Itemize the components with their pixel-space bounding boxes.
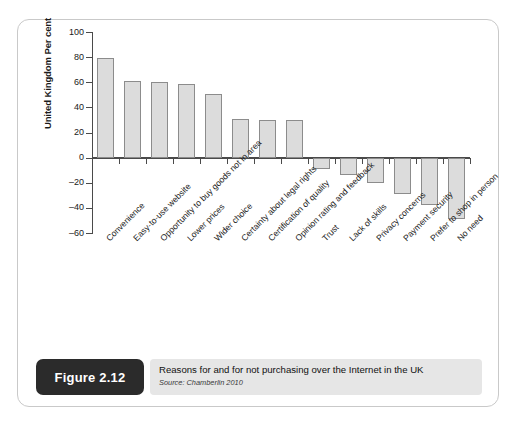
bar bbox=[259, 120, 276, 158]
x-axis-tick bbox=[254, 158, 255, 164]
x-axis-tick bbox=[227, 158, 228, 164]
y-axis-tick-label: 40 bbox=[44, 103, 84, 112]
bar bbox=[178, 84, 195, 158]
y-axis-tick bbox=[86, 233, 93, 234]
x-axis-tick bbox=[119, 158, 120, 164]
figure-caption-text: Reasons for and for not purchasing over … bbox=[159, 364, 473, 376]
x-axis-tick bbox=[416, 158, 417, 164]
y-axis-tick-label: –40 bbox=[44, 203, 84, 212]
bar bbox=[124, 81, 141, 158]
figure-card: United Kingdom Per cent 100806040200–20–… bbox=[17, 19, 499, 407]
figure-caption-panel: Reasons for and for not purchasing over … bbox=[150, 359, 482, 395]
y-axis-tick-label: 100 bbox=[44, 28, 84, 37]
y-axis-tick bbox=[86, 208, 93, 209]
y-axis-tick bbox=[86, 82, 93, 83]
bar bbox=[286, 120, 303, 158]
bar bbox=[394, 158, 411, 194]
bar bbox=[340, 158, 357, 176]
chart-plot-area: United Kingdom Per cent 100806040200–20–… bbox=[18, 20, 500, 350]
x-axis-tick bbox=[281, 158, 282, 164]
y-axis-tick bbox=[86, 133, 93, 134]
x-axis-tick bbox=[92, 158, 93, 164]
x-axis-label: Privacy concerns bbox=[374, 189, 427, 242]
y-axis-tick-label: 60 bbox=[44, 78, 84, 87]
x-axis-tick bbox=[470, 158, 471, 164]
figure-source-text: Source: Chamberlin 2010 bbox=[159, 378, 473, 387]
x-axis-tick bbox=[308, 158, 309, 164]
x-axis-label: Trust bbox=[320, 222, 341, 243]
bar bbox=[151, 82, 168, 157]
y-axis-tick bbox=[86, 183, 93, 184]
y-axis-tick bbox=[86, 57, 93, 58]
x-axis-tick bbox=[200, 158, 201, 164]
y-axis-tick-label: –20 bbox=[44, 178, 84, 187]
x-axis-tick bbox=[335, 158, 336, 164]
figure-caption-row: Figure 2.12 Reasons for and for not purc… bbox=[36, 359, 482, 395]
y-axis-tick-label: –60 bbox=[44, 229, 84, 238]
y-axis-tick bbox=[86, 32, 93, 33]
y-axis-tick-label: 80 bbox=[44, 53, 84, 62]
x-axis-tick bbox=[389, 158, 390, 164]
y-axis-tick bbox=[86, 107, 93, 108]
x-axis-tick bbox=[173, 158, 174, 164]
bar bbox=[205, 94, 222, 158]
x-axis-tick bbox=[146, 158, 147, 164]
x-axis-tick bbox=[443, 158, 444, 164]
y-axis-tick-label: 20 bbox=[44, 128, 84, 137]
figure-number-badge: Figure 2.12 bbox=[36, 359, 144, 395]
bar bbox=[97, 58, 114, 157]
y-axis-tick-label: 0 bbox=[44, 153, 84, 162]
x-axis-tick bbox=[362, 158, 363, 164]
